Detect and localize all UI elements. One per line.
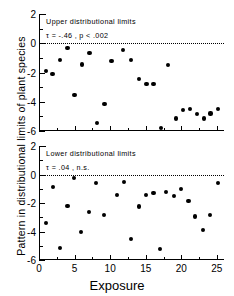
- data-point: [44, 69, 48, 73]
- data-point: [144, 193, 148, 197]
- y-tick-label: -2: [27, 67, 36, 78]
- figure: Pattern in distributional limits of plan…: [0, 0, 234, 296]
- y-tick-minor: [39, 29, 43, 30]
- zero-reference-line: [39, 175, 224, 176]
- x-tick-minor: [199, 128, 200, 131]
- data-point: [151, 191, 155, 195]
- y-tick-label: -4: [27, 226, 36, 237]
- x-tick-minor: [57, 257, 58, 260]
- data-point: [174, 116, 178, 120]
- data-point: [216, 107, 220, 111]
- y-tick-label: -4: [27, 96, 36, 107]
- y-tick-label: -2: [27, 198, 36, 209]
- x-axis-line: [39, 130, 224, 131]
- data-point: [94, 181, 98, 185]
- x-tick-label: 20: [176, 263, 187, 274]
- y-tick-minor: [39, 160, 43, 161]
- x-tick-major: [217, 255, 218, 260]
- x-tick-major: [181, 255, 182, 260]
- y-tick-major: [39, 203, 45, 204]
- data-point: [109, 59, 113, 63]
- data-point: [115, 193, 119, 197]
- data-point: [186, 199, 190, 203]
- x-axis-label: Exposure: [0, 278, 234, 293]
- data-point: [208, 111, 212, 115]
- data-point: [216, 181, 220, 185]
- panel-lower-statistic: τ = .04 , n.s.: [46, 163, 90, 172]
- data-point: [51, 185, 55, 189]
- x-tick-major: [39, 126, 40, 131]
- x-tick-major: [75, 255, 76, 260]
- data-point: [121, 48, 125, 52]
- data-point: [181, 108, 185, 112]
- data-point: [166, 63, 170, 67]
- panel-upper-title: Upper distributional limits: [46, 17, 136, 26]
- x-tick-label: 15: [140, 263, 151, 274]
- data-point: [201, 228, 205, 232]
- data-point: [102, 213, 106, 217]
- data-point: [137, 77, 141, 81]
- panel-upper-statistic: τ = -.46 , p < .002: [46, 31, 108, 40]
- y-tick-minor: [39, 217, 43, 218]
- data-point: [188, 107, 192, 111]
- data-point: [58, 58, 62, 62]
- y-tick-major: [39, 102, 45, 103]
- x-tick-major: [146, 255, 147, 260]
- x-tick-major: [39, 255, 40, 260]
- y-tick-label: 2: [30, 9, 36, 20]
- data-point: [87, 51, 91, 55]
- data-point: [65, 204, 69, 208]
- data-point: [122, 180, 126, 184]
- x-tick-minor: [92, 257, 93, 260]
- data-point: [87, 210, 91, 214]
- x-tick-label: 5: [72, 263, 78, 274]
- y-tick-minor: [39, 246, 43, 247]
- y-tick-minor: [39, 116, 43, 117]
- x-tick-minor: [57, 128, 58, 131]
- y-tick-major: [39, 146, 45, 147]
- x-tick-minor: [92, 128, 93, 131]
- y-tick-major: [39, 260, 45, 261]
- x-tick-minor: [128, 257, 129, 260]
- data-point: [129, 237, 133, 241]
- data-point: [72, 93, 76, 97]
- y-tick-label: -6: [27, 126, 36, 137]
- data-point: [179, 187, 183, 191]
- data-point: [202, 116, 206, 120]
- panel-upper-distributional-limits: Upper distributional limits τ = -.46 , p…: [39, 14, 224, 131]
- data-point: [95, 121, 99, 125]
- y-tick-minor: [39, 87, 43, 88]
- data-point: [79, 230, 83, 234]
- data-point: [159, 126, 163, 130]
- x-tick-minor: [164, 257, 165, 260]
- data-point: [195, 112, 199, 116]
- data-point: [193, 214, 197, 218]
- y-tick-minor: [39, 58, 43, 59]
- data-point: [158, 247, 162, 251]
- y-tick-label: 0: [30, 38, 36, 49]
- x-tick-major: [110, 255, 111, 260]
- x-tick-major: [217, 126, 218, 131]
- x-tick-minor: [164, 128, 165, 131]
- data-point: [129, 58, 133, 62]
- data-point: [164, 190, 168, 194]
- x-axis-line: [39, 259, 224, 260]
- x-tick-label: 10: [105, 263, 116, 274]
- x-tick-major: [181, 126, 182, 131]
- y-tick-major: [39, 232, 45, 233]
- data-point: [65, 46, 69, 50]
- panel-lower-title: Lower distributional limits: [46, 149, 136, 158]
- x-tick-minor: [199, 257, 200, 260]
- data-point: [50, 72, 54, 76]
- y-tick-major: [39, 14, 45, 15]
- data-point: [102, 102, 106, 106]
- x-tick-label: 0: [36, 263, 42, 274]
- panel-lower-distributional-limits: Lower distributional limits τ = .04 , n.…: [39, 146, 224, 260]
- zero-reference-line: [39, 43, 224, 44]
- x-tick-label: 25: [211, 263, 222, 274]
- data-point: [151, 82, 155, 86]
- y-axis-label: Pattern in distributional limits of plan…: [15, 21, 27, 271]
- x-tick-minor: [128, 128, 129, 131]
- y-tick-label: 0: [30, 169, 36, 180]
- y-tick-label: -6: [27, 255, 36, 266]
